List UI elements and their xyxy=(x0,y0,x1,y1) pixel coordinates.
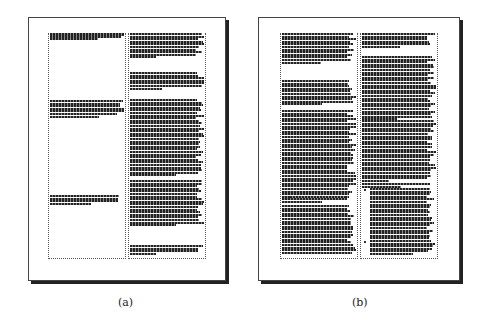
text-line xyxy=(290,196,346,198)
text-line xyxy=(50,116,99,118)
text-line xyxy=(50,38,98,40)
text-line xyxy=(130,56,156,58)
bullet-marker xyxy=(364,189,366,191)
caption-a: (a) xyxy=(118,296,133,309)
text-line xyxy=(130,88,162,90)
panel-a-column-1-region xyxy=(48,33,126,259)
bullet-marker xyxy=(364,241,366,243)
text-line xyxy=(130,253,156,255)
text-line xyxy=(282,201,322,203)
text-line xyxy=(362,46,400,48)
text-line xyxy=(50,203,91,205)
text-line xyxy=(282,252,352,254)
text-line xyxy=(130,174,176,176)
text-line xyxy=(362,180,389,182)
text-line xyxy=(370,253,413,255)
text-line xyxy=(130,224,176,226)
text-line xyxy=(282,62,321,64)
caption-b: (b) xyxy=(352,296,368,309)
text-line xyxy=(282,103,322,105)
